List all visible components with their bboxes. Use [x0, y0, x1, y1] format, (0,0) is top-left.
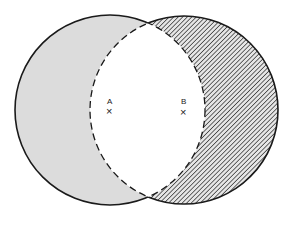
- label-b: B: [181, 97, 186, 106]
- center-marker-b: B ×: [180, 97, 186, 118]
- center-marker-a: A ×: [106, 97, 113, 117]
- x-mark-icon: ×: [106, 105, 112, 117]
- venn-diagram: A × B ×: [0, 0, 292, 232]
- x-mark-icon: ×: [180, 106, 186, 118]
